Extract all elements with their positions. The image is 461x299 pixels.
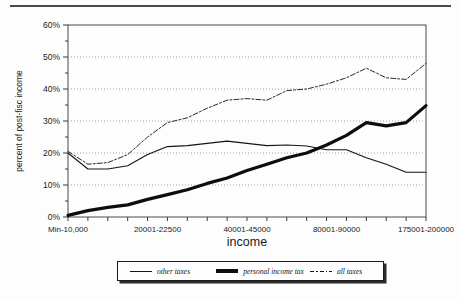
legend-label-other-taxes: other taxes (157, 267, 190, 276)
plot-background (68, 25, 426, 217)
dashed-line-swatch (310, 267, 332, 275)
y-tick-label: 0% (48, 212, 61, 222)
chart-canvas: 0%10%20%30%40%50%60% Min-10,00020001-225… (0, 12, 461, 252)
y-tick-label: 30% (43, 116, 60, 126)
legend-item-all-taxes[interactable]: all taxes (310, 262, 362, 280)
y-tick-label: 10% (43, 180, 60, 190)
top-divider-rule (10, 5, 451, 7)
x-axis-title: income (227, 235, 267, 249)
y-axis-title: percent of post-fisc income (14, 70, 24, 172)
chart-page: 0%10%20%30%40%50%60% Min-10,00020001-225… (0, 0, 461, 299)
thick-line-swatch (216, 267, 238, 275)
legend-label-personal-income-tax: personal income tax (243, 267, 304, 276)
x-tick-label: 80001-90000 (313, 225, 361, 234)
x-tick-label: 20001-22500 (134, 225, 182, 234)
y-tick-label: 40% (43, 84, 60, 94)
x-axis-tick-labels: Min-10,00020001-2250040001-4500080001-90… (48, 225, 455, 234)
chart-legend: other taxes personal income tax all taxe… (117, 261, 384, 281)
legend-item-personal-income-tax[interactable]: personal income tax (216, 262, 304, 280)
legend-item-other-taxes[interactable]: other taxes (130, 262, 190, 280)
x-tick-label: Min-10,000 (48, 225, 89, 234)
y-axis-tick-labels: 0%10%20%30%40%50%60% (43, 20, 60, 222)
x-tick-label: 40001-45000 (223, 225, 271, 234)
x-tick-label: 175001-200000 (398, 225, 455, 234)
line-chart: 0%10%20%30%40%50%60% Min-10,00020001-225… (0, 12, 461, 252)
y-tick-label: 20% (43, 148, 60, 158)
x-axis-ticks (68, 217, 426, 221)
y-tick-label: 60% (43, 20, 60, 30)
y-tick-label: 50% (43, 52, 60, 62)
legend-label-all-taxes: all taxes (337, 267, 362, 276)
thin-line-swatch (130, 267, 152, 275)
y-axis-ticks (63, 25, 68, 217)
